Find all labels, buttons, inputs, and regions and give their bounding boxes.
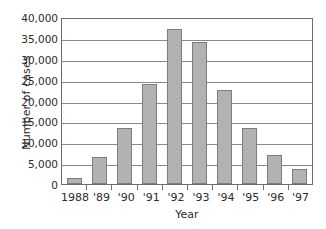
bar[interactable]	[242, 128, 257, 184]
x-tick-label: 1988	[61, 190, 89, 206]
bar-slot	[187, 19, 212, 184]
y-tick-label: 0	[14, 180, 58, 191]
bar[interactable]	[267, 155, 282, 184]
x-tick-label: '91	[139, 190, 164, 206]
bar-slot	[87, 19, 112, 184]
bar[interactable]	[292, 169, 307, 184]
bar-chart: Number of cases 05,00010,00015,00020,000…	[0, 0, 326, 229]
x-tick-label: '93	[189, 190, 214, 206]
bar-series	[62, 19, 312, 184]
bar[interactable]	[92, 157, 107, 184]
y-tick-label: 25,000	[14, 75, 58, 86]
plot-area	[61, 18, 313, 185]
bar[interactable]	[217, 90, 232, 184]
y-tick-label: 40,000	[14, 13, 58, 24]
x-tick-label: '96	[263, 190, 288, 206]
bar-slot	[212, 19, 237, 184]
y-tick-label: 5,000	[14, 159, 58, 170]
y-axis-tick-labels: 05,00010,00015,00020,00025,00030,00035,0…	[14, 18, 58, 185]
bar-slot	[287, 19, 312, 184]
bar-slot	[137, 19, 162, 184]
bar-slot	[112, 19, 137, 184]
x-axis-title: Year	[61, 208, 313, 221]
y-tick-label: 15,000	[14, 117, 58, 128]
y-tick-label: 10,000	[14, 138, 58, 149]
bar[interactable]	[117, 128, 132, 184]
bar[interactable]	[67, 178, 82, 184]
x-tick-label: '92	[164, 190, 189, 206]
bar-slot	[262, 19, 287, 184]
bar[interactable]	[167, 29, 182, 184]
x-tick-label: '97	[288, 190, 313, 206]
x-tick-label: '95	[238, 190, 263, 206]
bar[interactable]	[192, 42, 207, 184]
bar-slot	[62, 19, 87, 184]
bar-slot	[162, 19, 187, 184]
x-tick-label: '90	[114, 190, 139, 206]
y-tick-label: 30,000	[14, 55, 58, 66]
x-tick-label: '94	[213, 190, 238, 206]
y-tick-label: 20,000	[14, 96, 58, 107]
x-axis-tick-labels: 1988'89'90'91'92'93'94'95'96'97	[61, 190, 313, 206]
bar-slot	[237, 19, 262, 184]
x-tick-label: '89	[89, 190, 114, 206]
y-tick-label: 35,000	[14, 34, 58, 45]
bar[interactable]	[142, 84, 157, 184]
